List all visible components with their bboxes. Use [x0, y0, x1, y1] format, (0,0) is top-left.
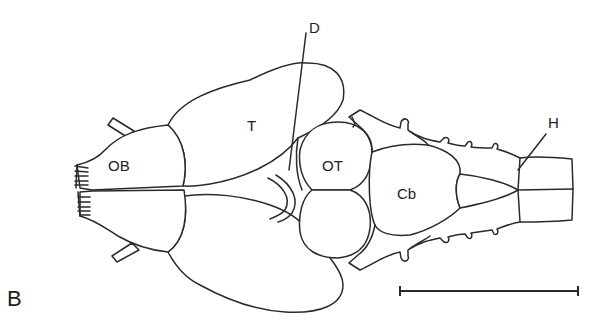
optic-tectum-top [300, 122, 373, 190]
label-cb: Cb [397, 185, 416, 202]
label-t: T [247, 117, 256, 134]
scale-bar [400, 286, 578, 296]
label-h: H [548, 114, 559, 131]
optic-tectum-bottom [300, 190, 371, 258]
label-d: D [309, 19, 320, 36]
label-ob: OB [108, 157, 130, 174]
olfactory-nerve-bottom [112, 243, 139, 262]
medulla [456, 174, 518, 208]
label-ot: OT [322, 157, 343, 174]
cranial-nerves-bottom [349, 222, 520, 270]
spinal-midline [518, 189, 573, 190]
olfactory-bulb-top [77, 125, 185, 190]
brain-diagram: OB T D OT Cb H B [0, 0, 600, 330]
olfactory-bulb-bottom [80, 190, 186, 252]
panel-label: B [7, 286, 22, 311]
